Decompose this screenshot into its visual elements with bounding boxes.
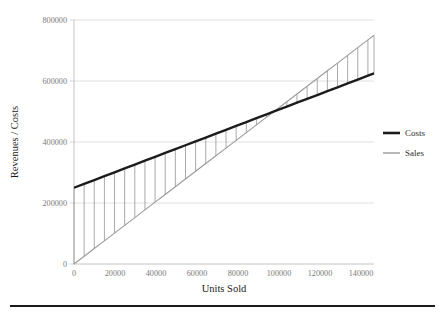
series-line-costs (74, 73, 374, 187)
y-tick-label-0: 0 (63, 260, 67, 269)
x-tick-label-120000: 120000 (308, 269, 333, 278)
y-tick-label-400000: 400000 (42, 138, 67, 147)
figure-caption-fragment (8, 313, 437, 321)
series-line-sales (74, 35, 374, 264)
x-tick-labels: 0 20000 40000 60000 80000 100000 120000 … (72, 269, 373, 278)
legend-item-costs[interactable]: Costs (383, 128, 426, 138)
y-tick-label-200000: 200000 (42, 199, 67, 208)
x-tick-label-100000: 100000 (267, 269, 292, 278)
y-tickmarks (70, 20, 74, 264)
y-tick-label-800000: 800000 (42, 16, 67, 25)
x-tick-label-60000: 60000 (187, 269, 207, 278)
x-tick-label-20000: 20000 (105, 269, 125, 278)
break-even-chart: 800000 600000 400000 200000 0 0 20000 40… (0, 0, 445, 321)
chart-legend: Costs Sales (383, 128, 426, 158)
x-tick-label-80000: 80000 (228, 269, 248, 278)
y-axis-title: Revenues / Costs (9, 106, 20, 178)
y-tick-label-600000: 600000 (42, 77, 67, 86)
x-tick-label-140000: 140000 (349, 269, 374, 278)
legend-label-sales: Sales (405, 148, 424, 158)
figure-bottom-rule (10, 305, 435, 307)
y-tick-labels: 800000 600000 400000 200000 0 (42, 16, 67, 269)
chart-figure: 800000 600000 400000 200000 0 0 20000 40… (0, 0, 445, 321)
x-tick-label-0: 0 (72, 269, 76, 278)
legend-label-costs: Costs (405, 128, 426, 138)
y-gridlines (74, 20, 374, 203)
x-axis-title: Units Sold (202, 283, 247, 294)
legend-item-sales[interactable]: Sales (383, 148, 424, 158)
x-tick-label-40000: 40000 (146, 269, 166, 278)
